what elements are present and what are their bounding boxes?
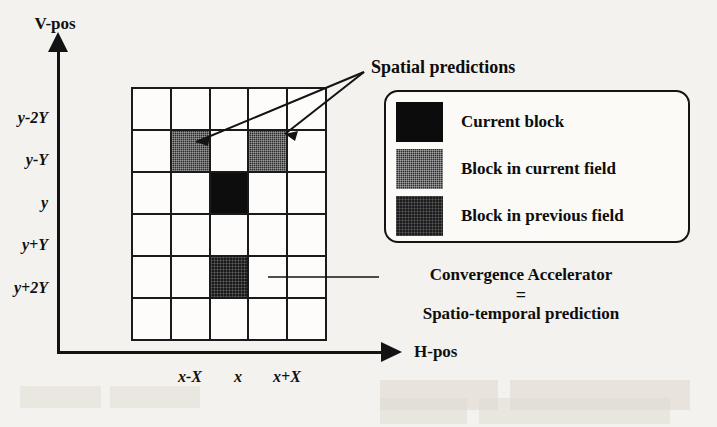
v-axis-title: V-pos [34,14,75,34]
legend-label-block-current-field: Block in current field [461,159,616,179]
grid-cell-empty [288,215,327,257]
legend-label-current-block: Current block [461,112,564,132]
grid-cell-empty [172,299,211,341]
ghost-text-mid-left [20,386,200,408]
h-tick-label-x-plus-X: x+X [273,368,301,386]
grid-cell-empty [288,299,327,341]
grid-cell-empty [211,299,250,341]
grid-cell-empty [249,173,288,215]
v-tick-label-y-plus-2Y: y+2Y [14,279,48,297]
legend-item-current-block: Current block [396,98,688,145]
legend-label-block-previous-field: Block in previous field [461,206,624,226]
grid-cell-empty [172,173,211,215]
grid-cell-empty [249,299,288,341]
grid-cell-empty [249,257,288,299]
grid-cell-empty [249,89,288,131]
convergence-caption-line-3: Spatio-temporal prediction [381,304,661,325]
grid-cell-empty [288,89,327,131]
legend-box: Current block Block in current field Blo… [384,90,690,243]
grid-cell-empty [249,215,288,257]
grid-cell-block-current-field [172,131,211,173]
h-axis-arrowhead-icon [381,342,402,362]
legend-swatch-block-current-field [396,149,443,189]
grid-cell-empty [211,215,250,257]
grid-cell-empty [133,173,172,215]
ghost-text-bottom-2 [380,398,670,424]
v-tick-label-y-minus-2Y: y-2Y [18,109,48,127]
h-tick-label-x: x [234,368,242,386]
v-tick-label-y-plus-Y: y+Y [22,236,48,254]
v-tick-label-y: y [41,194,48,212]
grid-cell-empty [172,257,211,299]
grid-cell-empty [288,257,327,299]
grid-cell-empty [133,257,172,299]
grid-cell-empty [172,89,211,131]
spatial-predictions-label: Spatial predictions [371,57,515,78]
grid-cell-current-block [211,173,250,215]
legend-item-block-previous-field: Block in previous field [396,192,688,239]
grid-cell-empty [133,131,172,173]
convergence-caption-equals: = [381,286,661,304]
h-tick-label-x-minus-X: x-X [178,368,202,386]
grid-cell-empty [133,215,172,257]
v-tick-label-y-minus-Y: y-Y [26,151,48,169]
figure-canvas: V-pos H-pos y-2Y y-Y y y+Y y+2Y x-X x x+… [0,0,717,427]
h-axis-title: H-pos [414,342,457,362]
grid-cell-empty [133,299,172,341]
grid-cell-empty [133,89,172,131]
grid-cell-empty [211,131,250,173]
block-grid [131,87,327,341]
grid-cell-empty [172,215,211,257]
ghost-text-top-left [30,4,349,20]
convergence-accelerator-caption: Convergence Accelerator = Spatio-tempora… [381,265,661,324]
legend-swatch-current-block [396,102,443,142]
legend-item-block-current-field: Block in current field [396,145,688,192]
v-axis-line [57,47,60,353]
convergence-caption-line-1: Convergence Accelerator [381,265,661,286]
grid-cell-empty [288,131,327,173]
grid-cell-block-previous-field [211,257,250,299]
grid-cell-empty [211,89,250,131]
legend-swatch-block-previous-field [396,196,443,236]
h-axis-line [57,351,393,354]
grid-cell-empty [288,173,327,215]
grid-cell-block-current-field [249,131,288,173]
